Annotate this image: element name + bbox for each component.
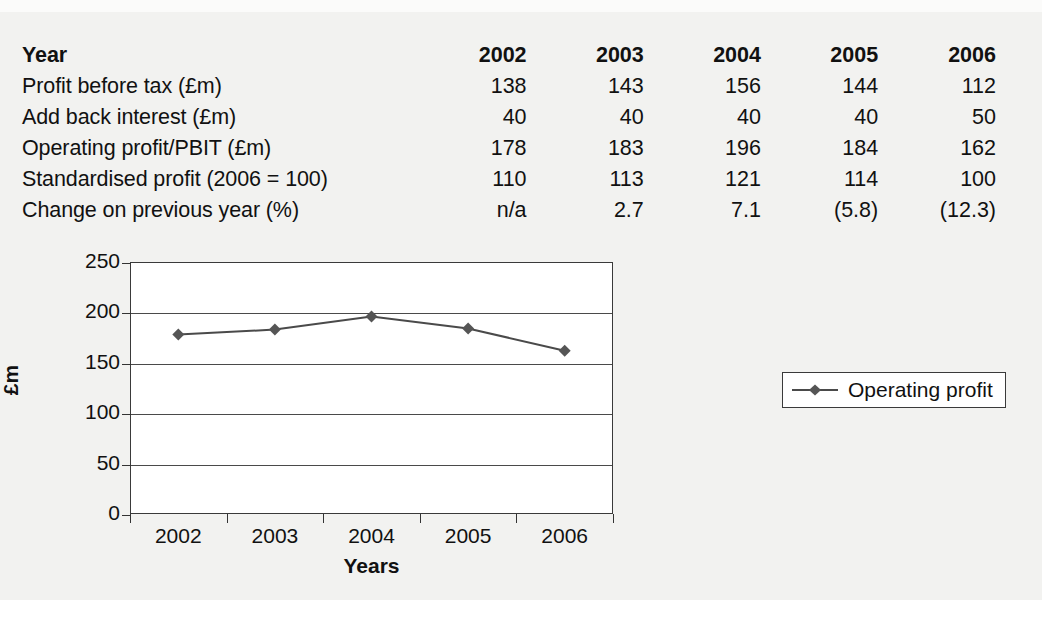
x-axis-tick-label: 2004 [327, 524, 417, 548]
data-point-marker [462, 323, 474, 335]
row-label: Add back interest (£m) [22, 102, 415, 133]
x-axis-title: Years [130, 554, 613, 578]
table-cell: 184 [767, 133, 884, 164]
y-axis-title: £m [0, 365, 23, 395]
legend-label: Operating profit [848, 378, 993, 402]
x-axis-ticks [130, 514, 613, 524]
y-axis-tick-label: 250 [62, 249, 120, 273]
table-header-row: Year20022003200420052006 [22, 40, 1002, 71]
x-axis-tick [516, 514, 517, 523]
table-cell: 114 [767, 164, 884, 195]
x-axis-tick [323, 514, 324, 523]
table-cell: 144 [767, 71, 884, 102]
table-row: Change on previous year (%)n/a2.77.1(5.8… [22, 195, 1002, 226]
x-axis-labels: 20022003200420052006 [130, 524, 613, 554]
chart-legend: Operating profit [782, 372, 1006, 408]
table-cell: 40 [533, 102, 650, 133]
column-header-year: 2003 [533, 40, 650, 71]
table-cell: 196 [650, 133, 767, 164]
x-axis-tick-label: 2003 [230, 524, 320, 548]
table-cell: 2.7 [533, 195, 650, 226]
table-cell: 100 [884, 164, 1002, 195]
data-point-marker [269, 324, 281, 336]
legend-marker-icon [791, 382, 839, 398]
column-header-year: 2002 [415, 40, 532, 71]
column-header-year: 2006 [884, 40, 1002, 71]
table-cell: 40 [650, 102, 767, 133]
table-cell: 50 [884, 102, 1002, 133]
table-cell: (5.8) [767, 195, 884, 226]
x-axis-tick [130, 514, 131, 523]
table-cell: 162 [884, 133, 1002, 164]
operating-profit-line-chart: £m 050100150200250 20022003200420052006 … [0, 248, 1042, 578]
column-header-year: 2004 [650, 40, 767, 71]
data-point-marker [366, 310, 378, 322]
x-axis-tick [420, 514, 421, 523]
table-cell: 113 [533, 164, 650, 195]
table-cell: (12.3) [884, 195, 1002, 226]
y-axis-tick-label: 0 [62, 501, 120, 525]
y-axis-labels: 050100150200250 [52, 262, 120, 514]
table-cell: 138 [415, 71, 532, 102]
table-row: Add back interest (£m)4040404050 [22, 102, 1002, 133]
table-cell: 121 [650, 164, 767, 195]
row-label: Profit before tax (£m) [22, 71, 415, 102]
y-axis-tick-label: 200 [62, 299, 120, 323]
row-label: Year [22, 40, 415, 71]
x-axis-tick [227, 514, 228, 523]
table-cell: n/a [415, 195, 532, 226]
table-row: Operating profit/PBIT (£m)17818319618416… [22, 133, 1002, 164]
table-row: Standardised profit (2006 = 100)11011312… [22, 164, 1002, 195]
scanned-page: Year20022003200420052006Profit before ta… [0, 0, 1042, 625]
table-cell: 110 [415, 164, 532, 195]
series-operating-profit [130, 262, 613, 514]
x-axis-tick-label: 2002 [133, 524, 223, 548]
y-axis-tick-label: 100 [62, 400, 120, 424]
data-point-marker [559, 345, 571, 357]
data-point-marker [172, 329, 184, 341]
table-cell: 143 [533, 71, 650, 102]
table-row: Profit before tax (£m)138143156144112 [22, 71, 1002, 102]
table-cell: 40 [767, 102, 884, 133]
row-label: Standardised profit (2006 = 100) [22, 164, 415, 195]
financial-data-table: Year20022003200420052006Profit before ta… [22, 40, 1002, 226]
table-cell: 178 [415, 133, 532, 164]
table-cell: 7.1 [650, 195, 767, 226]
row-label: Change on previous year (%) [22, 195, 415, 226]
x-axis-tick [613, 514, 614, 523]
table-cell: 112 [884, 71, 1002, 102]
column-header-year: 2005 [767, 40, 884, 71]
table-cell: 156 [650, 71, 767, 102]
x-axis-tick-label: 2006 [520, 524, 610, 548]
y-axis-tick-label: 150 [62, 350, 120, 374]
row-label: Operating profit/PBIT (£m) [22, 133, 415, 164]
y-axis-tick-label: 50 [62, 451, 120, 475]
table-cell: 183 [533, 133, 650, 164]
x-axis-tick-label: 2005 [423, 524, 513, 548]
table-cell: 40 [415, 102, 532, 133]
